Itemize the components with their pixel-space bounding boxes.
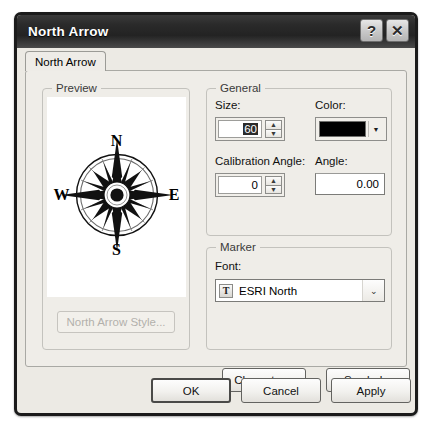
compass-label-south: S — [112, 242, 121, 258]
size-stepper-arrows: ▲ ▼ — [265, 120, 282, 138]
calibration-angle-label: Calibration Angle: — [215, 155, 305, 167]
compass-label-east: E — [169, 187, 180, 203]
ok-button-label: OK — [183, 385, 200, 397]
size-value: 60 — [243, 123, 258, 135]
color-swatch[interactable] — [319, 121, 366, 137]
window-title: North Arrow — [28, 24, 108, 39]
compass-rose-icon — [53, 131, 181, 259]
tab-page-north-arrow: Preview — [25, 70, 407, 367]
calibration-angle-input[interactable]: 0 — [218, 176, 262, 194]
calibration-angle-stepper-arrows: ▲ ▼ — [265, 176, 282, 194]
marker-group: Marker Font: T ESRI North ⌄ — [206, 247, 392, 350]
cancel-button-label: Cancel — [263, 385, 299, 397]
caption-button-group: ? ✕ — [360, 19, 409, 42]
calibration-spin-up-icon[interactable]: ▲ — [265, 176, 282, 185]
size-label: Size: — [215, 99, 241, 111]
chevron-down-icon[interactable]: ⌄ — [362, 280, 384, 301]
chevron-down-icon[interactable]: ▼ — [368, 121, 383, 137]
font-label: Font: — [215, 260, 241, 272]
font-combobox[interactable]: T ESRI North ⌄ — [215, 279, 385, 302]
tab-label: North Arrow — [35, 56, 96, 68]
close-icon[interactable]: ✕ — [386, 19, 409, 42]
tab-strip: North Arrow — [25, 51, 407, 71]
calibration-spin-down-icon[interactable]: ▼ — [265, 185, 282, 195]
angle-value: 0.00 — [357, 178, 379, 190]
size-stepper[interactable]: 60 ▲ ▼ — [215, 117, 285, 141]
angle-label: Angle: — [315, 155, 348, 167]
calibration-angle-value: 0 — [252, 179, 258, 191]
size-spin-up-icon[interactable]: ▲ — [265, 120, 282, 129]
size-spin-down-icon[interactable]: ▼ — [265, 129, 282, 139]
tab-north-arrow[interactable]: North Arrow — [25, 51, 106, 71]
general-group-label: General — [216, 82, 265, 94]
general-group: General Size: 60 ▲ ▼ Color: ▼ Calibratio… — [206, 88, 392, 236]
north-arrow-preview: N S W E — [47, 97, 186, 297]
color-label: Color: — [315, 99, 346, 111]
title-bar: North Arrow ? ✕ — [17, 15, 415, 48]
size-input[interactable]: 60 — [218, 120, 262, 138]
cancel-button[interactable]: Cancel — [241, 378, 321, 403]
calibration-angle-stepper[interactable]: 0 ▲ ▼ — [215, 173, 285, 197]
marker-group-label: Marker — [216, 241, 260, 253]
help-icon[interactable]: ? — [360, 19, 383, 42]
compass-label-north: N — [111, 133, 123, 149]
preview-group: Preview — [42, 88, 190, 350]
color-picker[interactable]: ▼ — [315, 117, 387, 141]
dialog-footer: OK Cancel Apply — [17, 378, 415, 404]
angle-input[interactable]: 0.00 — [315, 173, 385, 195]
north-arrow-style-button[interactable]: North Arrow Style... — [57, 311, 175, 333]
font-combobox-value: ESRI North — [239, 285, 362, 297]
preview-group-label: Preview — [52, 82, 101, 94]
apply-button-label: Apply — [357, 385, 386, 397]
compass-label-west: W — [54, 187, 70, 203]
ok-button[interactable]: OK — [151, 378, 231, 403]
compass-rose-graphic: N S W E — [53, 131, 181, 259]
north-arrow-dialog: North Arrow ? ✕ North Arrow Preview — [14, 12, 418, 416]
north-arrow-style-button-label: North Arrow Style... — [66, 316, 165, 328]
truetype-font-icon: T — [219, 284, 233, 298]
apply-button[interactable]: Apply — [331, 378, 411, 403]
